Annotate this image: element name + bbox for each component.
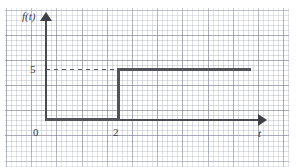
arrow-up-icon	[40, 12, 52, 21]
x-axis-label: t	[258, 128, 261, 139]
curve-segment-five-level	[117, 68, 251, 71]
x-tick-label-2: 2	[113, 127, 119, 138]
y-tick-label-5: 5	[30, 64, 36, 75]
graph-paper-background	[5, 8, 289, 167]
y-axis-label: f(t)	[22, 11, 35, 22]
curve-segment-step-jump	[117, 69, 120, 121]
arrow-right-icon	[258, 114, 267, 126]
origin-label: 0	[33, 127, 39, 138]
dashed-level-guide	[46, 69, 118, 70]
y-axis-line	[45, 19, 47, 121]
curve-segment-zero-level	[46, 118, 118, 121]
step-function-graph-screenshot: f(t) 5 0 2 t	[0, 0, 296, 167]
paper-haze-overlay	[5, 8, 289, 167]
